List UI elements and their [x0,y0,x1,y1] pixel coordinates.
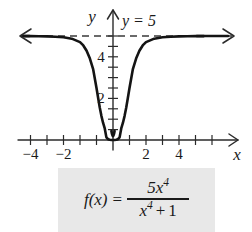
y-tick-label-2: 2 [97,90,105,106]
y-axis-label: y [86,7,96,26]
formula-equals: = [113,191,123,208]
formula-denominator: x4+1 [135,202,180,219]
x-tick-label-2: 2 [142,146,150,162]
x-tick-label-4: 4 [175,146,183,162]
denominator-constant: 1 [168,201,177,220]
y-tick-label-4: 4 [97,49,105,65]
x-axis-label: x [232,145,241,164]
x-tick-label-neg2: −2 [56,146,72,162]
formula-caption-box: f(x) = 5x4 x4+1 [58,168,215,232]
asymptote-label: y = 5 [120,12,156,30]
denominator-exponent: 4 [147,199,153,212]
x-tick-label-neg4: −4 [23,146,39,162]
numerator-exponent: 4 [163,177,169,190]
formula-numerator: 5x4 [143,179,173,196]
denominator-plus: + [156,201,166,220]
formula-lhs: f(x) [84,191,108,208]
denominator-variable: x [139,201,147,220]
formula-fraction: 5x4 x4+1 [127,179,189,219]
function-graph-figure: y x y = 5 −4 −2 2 4 2 4 f(x) = 5x4 x4+1 [0,0,252,232]
numerator-coefficient: 5 [147,178,156,197]
fraction-bar [127,198,189,200]
formula-expression: f(x) = 5x4 x4+1 [84,179,189,221]
